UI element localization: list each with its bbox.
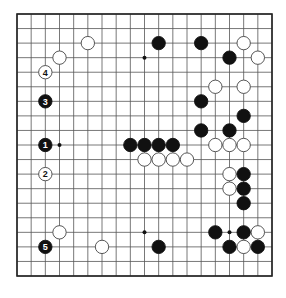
black-stone: [152, 36, 165, 49]
black-stone-1: 1: [39, 138, 52, 151]
black-stone: [194, 36, 207, 49]
white-stone: [223, 182, 236, 195]
white-stone: [237, 138, 250, 151]
white-stone: [237, 80, 250, 93]
white-stone: [95, 240, 108, 253]
black-stone: [152, 138, 165, 151]
white-stone: [180, 153, 193, 166]
move-number-label: 4: [43, 68, 48, 78]
white-stone: [237, 36, 250, 49]
white-stone: [53, 51, 66, 64]
white-stone: [223, 167, 236, 180]
move-number-label: 2: [43, 169, 48, 179]
white-stone: [138, 153, 151, 166]
black-stone: [237, 167, 250, 180]
white-stone: [251, 51, 264, 64]
star-point: [143, 56, 147, 60]
black-stone: [223, 51, 236, 64]
star-point: [58, 143, 62, 147]
move-number-label: 1: [43, 140, 48, 150]
black-stone: [194, 124, 207, 137]
white-stone-2: 2: [39, 167, 52, 180]
black-stone: [237, 182, 250, 195]
white-stone: [237, 240, 250, 253]
go-board: 43125: [0, 0, 286, 298]
star-point: [228, 230, 232, 234]
black-stone: [223, 240, 236, 253]
black-stone: [237, 109, 250, 122]
white-stone: [81, 36, 94, 49]
black-stone: [166, 138, 179, 151]
white-stone: [166, 153, 179, 166]
black-stone: [237, 197, 250, 210]
white-stone: [209, 138, 222, 151]
black-stone: [223, 124, 236, 137]
white-stone: [223, 138, 236, 151]
black-stone: [194, 95, 207, 108]
white-stone-4: 4: [39, 66, 52, 79]
black-stone-3: 3: [39, 95, 52, 108]
move-number-label: 3: [43, 97, 48, 107]
black-stone: [209, 226, 222, 239]
white-stone: [251, 226, 264, 239]
black-stone: [152, 240, 165, 253]
white-stone: [53, 226, 66, 239]
white-stone: [209, 80, 222, 93]
black-stone: [251, 240, 264, 253]
white-stone: [152, 153, 165, 166]
black-stone: [237, 226, 250, 239]
move-number-label: 5: [43, 242, 48, 252]
star-point: [143, 230, 147, 234]
black-stone-5: 5: [39, 240, 52, 253]
black-stone: [124, 138, 137, 151]
black-stone: [138, 138, 151, 151]
